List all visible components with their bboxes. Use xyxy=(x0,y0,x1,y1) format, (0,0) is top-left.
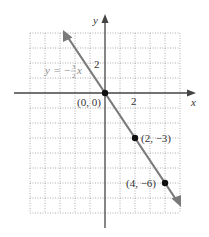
point-origin xyxy=(102,90,108,96)
y-axis xyxy=(102,14,109,228)
point-label-2-neg3: (2, −3) xyxy=(141,132,171,145)
svg-text:=: = xyxy=(54,64,60,76)
svg-text:3: 3 xyxy=(72,63,76,71)
svg-text:−: − xyxy=(64,64,70,76)
y-axis-label: y xyxy=(92,14,98,26)
svg-text:x: x xyxy=(76,64,82,76)
coordinate-graph: y x 2 2 y = − 3 2 x (0, 0) (2, −3) (4, −… xyxy=(0,0,209,237)
point-4-neg6 xyxy=(162,180,168,186)
point-2-neg3 xyxy=(132,135,138,141)
svg-text:2: 2 xyxy=(72,72,76,80)
equation-label: y = − 3 2 x xyxy=(44,63,82,80)
point-label-4-neg6: (4, −6) xyxy=(126,177,156,190)
x-axis-label: x xyxy=(190,96,196,108)
x-tick-label: 2 xyxy=(131,95,137,107)
svg-text:y: y xyxy=(44,64,50,76)
point-label-origin: (0, 0) xyxy=(77,96,101,109)
y-tick-label: 2 xyxy=(94,58,100,70)
